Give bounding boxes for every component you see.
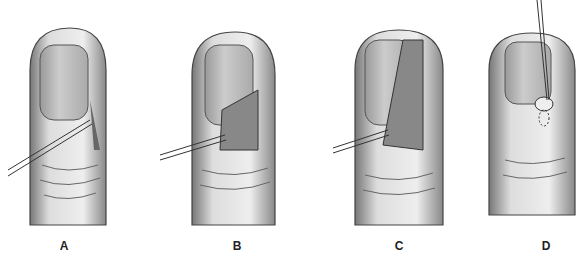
panel-label-d: D — [542, 239, 551, 253]
panel-a — [8, 0, 118, 235]
panel-label-a: A — [60, 239, 69, 253]
panel-label-b: B — [233, 239, 242, 253]
panel-d — [487, 0, 579, 235]
panel-c — [333, 0, 463, 235]
finger-illustration-a — [8, 0, 118, 235]
panel-label-c: C — [395, 239, 404, 253]
panel-b — [160, 0, 285, 235]
finger-illustration-c — [333, 0, 463, 235]
finger-illustration-b — [160, 0, 285, 235]
finger-illustration-d — [487, 0, 579, 235]
